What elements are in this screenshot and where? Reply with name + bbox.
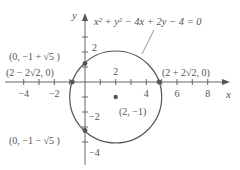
center-point: [114, 95, 118, 99]
equation-label: x² + y² − 4x + 2y − 4 = 0: [93, 16, 202, 27]
x-axis-arrow-icon: [222, 79, 230, 85]
x-tick-label: 2: [113, 66, 118, 77]
x-tick-label: −4: [18, 88, 29, 99]
x-intercept-left-point: [70, 80, 75, 85]
y-tick-label: 2: [92, 42, 97, 53]
y-tick-label: −2: [89, 111, 100, 122]
x-tick-label: −2: [49, 88, 60, 99]
x-intercept-right-label: (2 + 2√2, 0): [162, 67, 210, 79]
equation-pointer: [142, 30, 154, 54]
x-intercept-left-label: (2 − 2√2, 0): [6, 67, 54, 79]
x-tick-label: 6: [175, 88, 180, 99]
x-tick-label: 8: [205, 88, 210, 99]
y-axis-arrow-icon: [82, 13, 88, 21]
center-label: (2, −1): [119, 106, 146, 118]
x-axis-label: x: [225, 88, 231, 100]
x-intercept-right-point: [157, 80, 162, 85]
y-intercept-top-point: [83, 61, 88, 66]
y-intercept-bottom-point: [83, 128, 88, 133]
y-intercept-bottom-label: (0, −1 − √5 ): [9, 135, 60, 147]
y-tick-label: −4: [89, 147, 100, 158]
y-axis-label: y: [71, 9, 77, 21]
circle-diagram: −4 −2 2 4 6 8 2 −2 −4 x y x² + y² − 4x +…: [0, 0, 240, 170]
x-tick-label: 4: [144, 88, 149, 99]
y-intercept-top-label: (0, −1 + √5 ): [9, 51, 60, 63]
